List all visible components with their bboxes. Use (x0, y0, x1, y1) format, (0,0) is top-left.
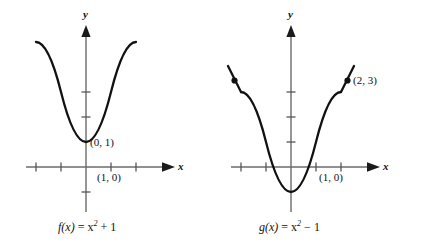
x-axis-label-left: x (178, 160, 184, 172)
caption-g-name: g(x) (259, 220, 278, 234)
y-axis-label-left: y (83, 8, 88, 20)
graph-panel-right: y x (2, 3) (1, 0) g(x) = x2 − 1 (211, 0, 422, 249)
caption-g-eq: = x (278, 220, 297, 234)
point-label-two-three: (2, 3) (353, 74, 377, 86)
point-label-one-zero-right: (1, 0) (319, 171, 343, 183)
graph-svg-right (211, 0, 422, 249)
graph-panel-left: y x (0, 1) (1, 0) f(x) = x2 + 1 (0, 0, 211, 249)
curve-g-tail-left (228, 66, 241, 92)
x-axis-right (231, 162, 380, 172)
point-label-one-zero-left: (1, 0) (97, 171, 121, 183)
y-axis-left (81, 25, 90, 212)
caption-f-tail: + 1 (97, 220, 116, 234)
graph-svg-left (0, 0, 211, 249)
caption-g-x: g(x) = x2 − 1 (259, 219, 320, 235)
caption-f-x: f(x) = x2 + 1 (58, 219, 116, 235)
parabola-figure: y x (0, 1) (1, 0) f(x) = x2 + 1 (0, 0, 422, 249)
x-axis-label-right: x (383, 160, 389, 172)
caption-g-tail: − 1 (301, 220, 320, 234)
point-label-vertex-left: (0, 1) (90, 136, 114, 148)
y-axis-label-right: y (288, 8, 293, 20)
caption-f-eq: = x (75, 220, 94, 234)
y-axis-right (286, 25, 295, 212)
caption-f-name: f(x) (58, 220, 75, 234)
